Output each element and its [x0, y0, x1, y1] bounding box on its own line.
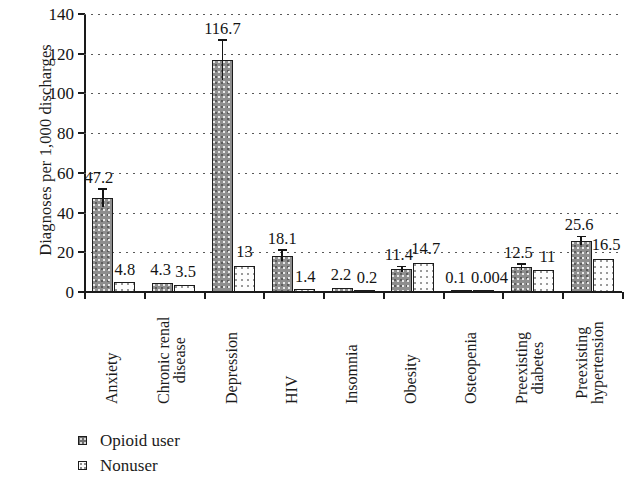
bar-opioid	[152, 283, 173, 292]
bar-value-label: 18.1	[268, 231, 297, 248]
error-bar-cap	[98, 188, 107, 190]
bar-value-label: 0.1	[445, 270, 466, 287]
x-category-label: Preexistingdiabetes	[514, 332, 547, 404]
x-tick-mark	[144, 292, 146, 299]
x-tick-mark	[622, 292, 624, 299]
bar-value-label: 0.004	[471, 270, 508, 287]
bar-nonuser	[473, 290, 494, 292]
error-bar-cap	[278, 249, 287, 251]
bar-nonuser	[593, 259, 614, 292]
bar-value-label: 4.8	[115, 262, 136, 279]
error-bar	[222, 41, 224, 80]
bar-value-label: 47.2	[84, 170, 113, 187]
bar-nonuser	[114, 282, 135, 292]
legend-label-opioid-user: Opioid user	[100, 431, 180, 451]
x-tick-mark	[562, 292, 564, 299]
x-category-label: Anxiety	[104, 352, 120, 404]
bar-opioid	[332, 288, 353, 292]
bar-value-label: 0.2	[357, 270, 378, 287]
bar-value-label: 25.6	[565, 217, 594, 234]
x-category-label: Chronic renaldisease	[156, 316, 189, 404]
bar-value-label: 12.5	[504, 245, 533, 262]
x-category-label: Depression	[224, 332, 240, 404]
bar-opioid	[391, 269, 412, 292]
error-bar	[580, 237, 582, 245]
x-tick-mark	[323, 292, 325, 299]
bar-nonuser	[413, 263, 434, 292]
x-category-label: Preexistinghypertension	[574, 321, 607, 404]
chart-legend: Opioid user Nonuser	[78, 428, 180, 478]
bar-value-label: 3.5	[175, 264, 196, 281]
error-bar	[401, 267, 403, 271]
bar-chart: Diagnoses per 1,000 discharges 020406080…	[0, 0, 632, 479]
legend-item-opioid-user: Opioid user	[78, 428, 180, 453]
bar-opioid	[451, 290, 472, 292]
legend-swatch-nonuser-icon	[78, 461, 87, 470]
bar-value-label: 1.4	[295, 269, 316, 286]
bar-opioid	[511, 267, 532, 292]
y-tick-label: 120	[8, 46, 74, 63]
bar-opioid	[272, 256, 293, 292]
x-tick-mark	[443, 292, 445, 299]
bar-opioid	[92, 198, 113, 292]
y-tick-label: 0	[8, 284, 74, 301]
x-category-label: Obesity	[403, 354, 419, 404]
x-category-label: Insomnia	[344, 344, 360, 404]
error-bar-cap	[517, 263, 526, 265]
bar-value-label: 13	[236, 244, 253, 261]
x-category-label: HIV	[284, 376, 300, 404]
x-tick-mark	[502, 292, 504, 299]
bar-value-label: 11.4	[385, 247, 413, 264]
bar-nonuser	[174, 285, 195, 292]
legend-item-nonuser: Nonuser	[78, 453, 180, 478]
x-category-label: Osteopenia	[463, 332, 479, 404]
error-bar-cap	[397, 266, 406, 268]
x-tick-mark	[263, 292, 265, 299]
bar-nonuser	[533, 270, 554, 292]
y-tick-label: 100	[8, 85, 74, 102]
y-tick-label: 60	[8, 165, 74, 182]
bar-value-label: 2.2	[331, 267, 352, 284]
y-tick-label: 40	[8, 205, 74, 222]
x-tick-mark	[383, 292, 385, 299]
x-tick-mark	[204, 292, 206, 299]
x-tick-mark	[84, 292, 86, 299]
error-bar	[281, 251, 283, 261]
y-tick-label: 80	[8, 125, 74, 142]
bar-nonuser	[294, 289, 315, 292]
error-bar-cap	[218, 39, 227, 41]
bar-value-label: 116.7	[204, 21, 241, 38]
bar-opioid	[212, 60, 233, 292]
error-bar-cap	[577, 236, 586, 238]
bar-value-label: 16.5	[592, 237, 621, 254]
legend-label-nonuser: Nonuser	[100, 456, 158, 476]
y-tick-label: 20	[8, 244, 74, 261]
bar-value-label: 11	[539, 249, 555, 266]
bar-opioid	[571, 241, 592, 292]
bar-value-label: 4.3	[150, 262, 171, 279]
legend-swatch-opioid-user-icon	[78, 436, 87, 445]
error-bar	[521, 265, 523, 270]
bar-nonuser	[234, 266, 255, 292]
error-bar	[102, 190, 104, 207]
bar-value-label: 14.7	[411, 241, 440, 258]
bar-nonuser	[354, 290, 375, 292]
y-tick-label: 140	[8, 6, 74, 23]
